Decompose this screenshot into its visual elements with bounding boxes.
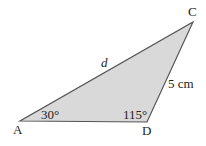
side-label-d: d xyxy=(101,55,108,70)
vertex-label-c: C xyxy=(188,4,197,19)
triangle-diagram: C A D d 5 cm 30° 115° xyxy=(0,0,206,146)
vertex-label-d: D xyxy=(142,123,151,138)
angle-label-a: 30° xyxy=(41,107,59,122)
vertex-label-a: A xyxy=(13,122,23,137)
side-label-dc: 5 cm xyxy=(168,76,194,91)
angle-label-d: 115° xyxy=(123,107,147,122)
